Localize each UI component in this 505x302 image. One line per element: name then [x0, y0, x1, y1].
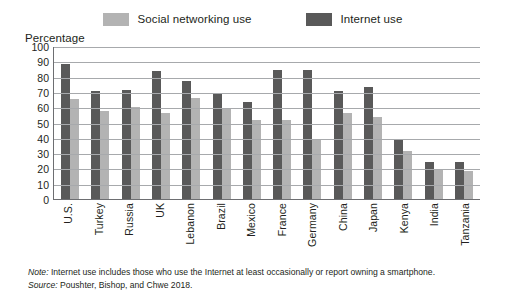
- gridline-90: [54, 62, 480, 63]
- y-tick-80: 80: [37, 72, 49, 83]
- x-tick-label: France: [276, 203, 288, 236]
- chart-legend: Social networking use Internet use: [0, 11, 505, 27]
- chart-plot-area: 1009080706050403020100: [25, 47, 480, 200]
- footnote-source-prefix: Source:: [28, 280, 58, 290]
- bar: [252, 120, 261, 200]
- y-tick-20: 20: [37, 164, 49, 175]
- gridline-70: [54, 93, 480, 94]
- x-tick-label: Lebanon: [184, 203, 196, 245]
- chart-footnotes: Note: Internet use includes those who us…: [28, 266, 488, 293]
- y-tick-100: 100: [31, 42, 49, 53]
- bar: [122, 90, 131, 200]
- bar: [100, 111, 109, 200]
- bar: [182, 81, 191, 200]
- x-label-cell: Germany: [297, 201, 328, 263]
- gridline-10: [54, 185, 480, 186]
- x-axis-labels: U.S.TurkeyRussiaUKLebanonBrazilMexicoFra…: [53, 201, 480, 263]
- gridline-0: [54, 199, 480, 200]
- footnote-note-text: Internet use includes those who use the …: [49, 267, 435, 277]
- footnote-source: Source: Poushter, Bishop, and Chwe 2018.: [28, 279, 488, 292]
- x-tick-label: Russia: [123, 203, 135, 236]
- legend-label-social: Social networking use: [138, 13, 252, 25]
- x-tick-label: Tanzania: [459, 203, 471, 246]
- footnote-note-prefix: Note:: [28, 267, 49, 277]
- x-tick-label: India: [428, 203, 440, 226]
- x-label-cell: Tanzania: [450, 201, 481, 263]
- x-label-cell: China: [328, 201, 359, 263]
- bar: [455, 162, 464, 200]
- bar: [161, 113, 170, 200]
- x-tick-label: Kenya: [398, 203, 410, 233]
- x-label-cell: Lebanon: [175, 201, 206, 263]
- x-tick-label: China: [337, 203, 349, 231]
- x-tick-label: Brazil: [215, 203, 227, 230]
- legend-swatch-social: [103, 13, 129, 26]
- y-tick-50: 50: [37, 118, 49, 129]
- gridline-30: [54, 154, 480, 155]
- x-tick-label: U.S.: [62, 203, 74, 224]
- gridline-40: [54, 139, 480, 140]
- y-tick-60: 60: [37, 103, 49, 114]
- x-label-cell: U.S.: [53, 201, 84, 263]
- y-tick-90: 90: [37, 57, 49, 68]
- x-label-cell: Russia: [114, 201, 145, 263]
- y-tick-10: 10: [37, 179, 49, 190]
- x-label-cell: India: [419, 201, 450, 263]
- x-label-cell: Japan: [358, 201, 389, 263]
- x-label-cell: Brazil: [206, 201, 237, 263]
- x-label-cell: Mexico: [236, 201, 267, 263]
- legend-item-internet-use: Internet use: [306, 13, 403, 26]
- bar: [303, 70, 312, 200]
- legend-item-social-networking-use: Social networking use: [103, 13, 252, 26]
- gridline-20: [54, 169, 480, 170]
- x-label-cell: Turkey: [84, 201, 115, 263]
- y-tick-70: 70: [37, 88, 49, 99]
- x-tick-label: UK: [154, 203, 166, 218]
- y-tick-0: 0: [43, 195, 49, 206]
- y-tick-30: 30: [37, 149, 49, 160]
- footnote-source-text: Poushter, Bishop, and Chwe 2018.: [58, 280, 193, 290]
- x-tick-label: Turkey: [93, 203, 105, 235]
- y-axis-ticks: 1009080706050403020100: [25, 47, 53, 200]
- bar: [425, 162, 434, 200]
- gridline-100: [54, 47, 480, 48]
- bar: [364, 87, 373, 200]
- gridline-60: [54, 108, 480, 109]
- gridline-50: [54, 124, 480, 125]
- bar: [282, 120, 291, 200]
- plot-canvas: [53, 47, 480, 200]
- y-tick-40: 40: [37, 134, 49, 145]
- gridline-80: [54, 78, 480, 79]
- x-label-cell: UK: [145, 201, 176, 263]
- x-tick-label: Mexico: [245, 203, 257, 237]
- footnote-note: Note: Internet use includes those who us…: [28, 266, 488, 279]
- x-label-cell: France: [267, 201, 298, 263]
- bar: [373, 117, 382, 200]
- bar: [273, 70, 282, 200]
- bar: [403, 151, 412, 200]
- bar: [152, 71, 161, 200]
- x-label-cell: Kenya: [389, 201, 420, 263]
- x-tick-label: Germany: [306, 203, 318, 247]
- legend-swatch-internet: [306, 13, 332, 26]
- bar: [61, 64, 70, 200]
- legend-label-internet: Internet use: [341, 13, 403, 25]
- x-tick-label: Japan: [367, 203, 379, 232]
- bar: [343, 113, 352, 200]
